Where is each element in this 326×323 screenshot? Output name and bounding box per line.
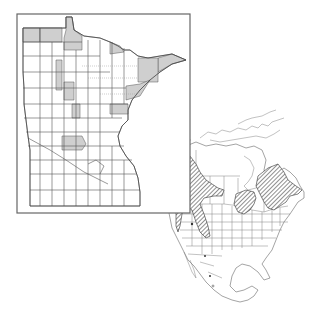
county-stearns <box>62 136 86 150</box>
county-beltrami-col <box>56 60 62 90</box>
county-carlton <box>110 104 128 114</box>
record-point <box>209 275 211 277</box>
record-point <box>191 223 193 225</box>
county-roseau <box>40 28 62 42</box>
county-cass-col <box>64 82 74 100</box>
record-point <box>204 255 206 257</box>
record-point <box>212 285 214 287</box>
distribution-figure <box>0 0 326 323</box>
county-lake <box>138 58 158 82</box>
minnesota-inset <box>17 14 190 213</box>
arctic-islands <box>200 110 284 142</box>
county-kittson <box>23 28 40 42</box>
